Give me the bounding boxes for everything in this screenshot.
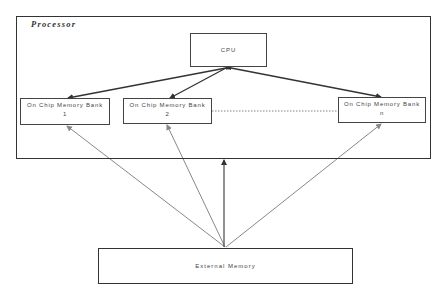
- bank-n-index: n: [339, 109, 425, 118]
- external-memory-label: External Memory: [195, 263, 255, 269]
- bank-n-title: On Chip Memory Bank: [339, 100, 425, 109]
- memory-bank-n: On Chip Memory Bank n: [338, 97, 426, 123]
- cpu-label: CPU: [221, 47, 237, 53]
- memory-bank-2: On Chip Memory Bank 2: [123, 98, 212, 124]
- processor-label: Processor: [31, 19, 76, 29]
- cpu-box: CPU: [190, 33, 267, 67]
- bank-1-index: 1: [21, 110, 109, 119]
- bank-2-index: 2: [124, 110, 211, 119]
- memory-bank-1: On Chip Memory Bank 1: [20, 98, 110, 125]
- bank-1-title: On Chip Memory Bank: [21, 101, 109, 110]
- external-memory-box: External Memory: [98, 248, 353, 284]
- bank-2-title: On Chip Memory Bank: [124, 101, 211, 110]
